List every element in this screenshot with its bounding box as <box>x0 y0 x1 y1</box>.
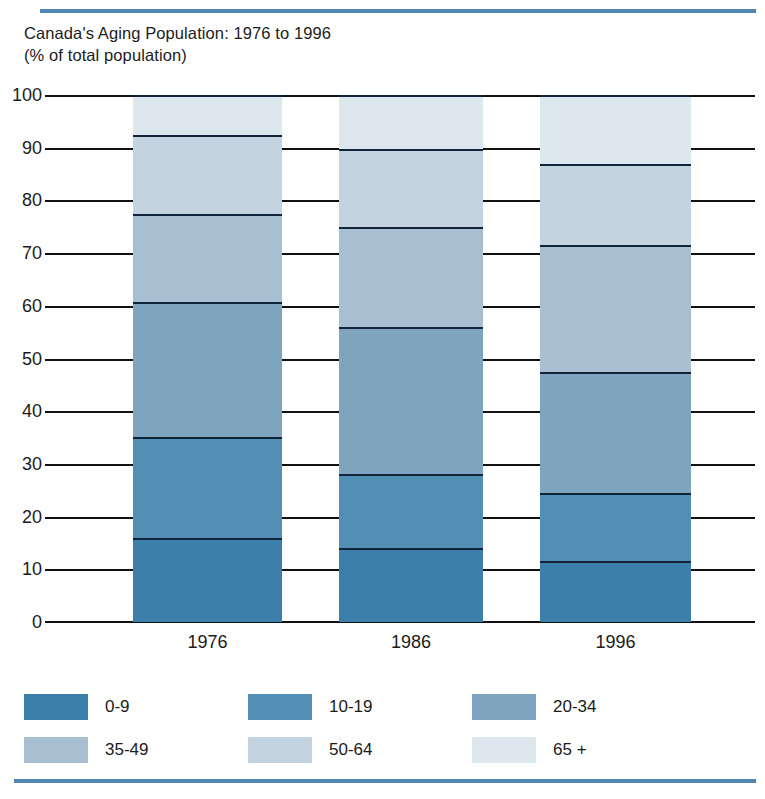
bar-segment-1976-0-9[interactable] <box>133 538 282 622</box>
gridline <box>691 517 755 519</box>
gridline <box>483 95 540 97</box>
bar-segment-1976-50-64[interactable] <box>133 135 282 215</box>
legend-swatch-10-19 <box>248 694 312 720</box>
y-axis-tick-label: 90 <box>0 137 42 158</box>
gridline <box>282 569 339 571</box>
bar-segment-1996-50-64[interactable] <box>540 164 691 246</box>
gridline <box>45 411 133 413</box>
bar-1976[interactable] <box>133 95 282 622</box>
legend-item-10-19: 10-19 <box>248 692 472 722</box>
gridline <box>483 253 540 255</box>
gridline <box>45 200 133 202</box>
gridline <box>45 148 133 150</box>
bar-segment-1986-20-34[interactable] <box>339 327 483 475</box>
legend-label-0-9: 0-9 <box>105 697 130 717</box>
gridline <box>282 306 339 308</box>
bar-segment-1976-35-49[interactable] <box>133 214 282 302</box>
chart-page: Canada's Aging Population: 1976 to 1996 … <box>0 0 765 799</box>
gridline <box>45 95 133 97</box>
gridline <box>691 253 755 255</box>
bar-segment-1976-65-+[interactable] <box>133 95 282 135</box>
y-axis-tick-label: 60 <box>0 295 42 316</box>
gridline <box>282 253 339 255</box>
x-axis-label-1996: 1996 <box>540 632 691 653</box>
gridline <box>691 464 755 466</box>
gridline <box>483 306 540 308</box>
bar-1996[interactable] <box>540 95 691 622</box>
legend-label-35-49: 35-49 <box>105 740 148 760</box>
gridline <box>282 359 339 361</box>
gridline <box>45 569 133 571</box>
gridline <box>282 411 339 413</box>
gridline <box>483 359 540 361</box>
legend-label-10-19: 10-19 <box>329 697 372 717</box>
bar-1986[interactable] <box>339 95 483 622</box>
x-axis-label-1976: 1976 <box>133 632 282 653</box>
bar-segment-1986-35-49[interactable] <box>339 227 483 327</box>
gridline <box>691 306 755 308</box>
bar-segment-1996-0-9[interactable] <box>540 561 691 622</box>
y-axis-tick-label: 100 <box>0 85 42 106</box>
y-axis-tick-label: 70 <box>0 243 42 264</box>
legend-swatch-20-34 <box>472 694 536 720</box>
bar-segment-1996-10-19[interactable] <box>540 493 691 562</box>
bottom-rule <box>14 779 756 783</box>
y-axis-tick-label: 20 <box>0 506 42 527</box>
bar-segment-1996-20-34[interactable] <box>540 372 691 493</box>
legend-item-35-49: 35-49 <box>24 735 248 765</box>
legend-item-20-34: 20-34 <box>472 692 696 722</box>
gridline <box>691 569 755 571</box>
gridline <box>282 464 339 466</box>
legend-swatch-0-9 <box>24 694 88 720</box>
y-axis-tick-label: 80 <box>0 190 42 211</box>
bar-segment-1996-35-49[interactable] <box>540 245 691 371</box>
gridline <box>691 359 755 361</box>
gridline <box>483 148 540 150</box>
gridline <box>483 200 540 202</box>
x-axis-label-1986: 1986 <box>339 632 483 653</box>
gridline <box>282 148 339 150</box>
gridline <box>691 95 755 97</box>
legend-row-2: 35-49 50-64 65 + <box>24 735 740 765</box>
legend-swatch-35-49 <box>24 737 88 763</box>
gridline <box>282 200 339 202</box>
y-axis-tick-label: 40 <box>0 401 42 422</box>
legend-item-0-9: 0-9 <box>24 692 248 722</box>
bar-segment-1986-0-9[interactable] <box>339 548 483 622</box>
gridline <box>691 411 755 413</box>
gridline <box>45 253 133 255</box>
gridline <box>282 517 339 519</box>
gridline <box>45 359 133 361</box>
gridline <box>483 411 540 413</box>
gridline <box>45 464 133 466</box>
gridline <box>483 517 540 519</box>
legend-label-20-34: 20-34 <box>553 697 596 717</box>
bar-segment-1986-50-64[interactable] <box>339 149 483 227</box>
y-axis-tick-label: 50 <box>0 348 42 369</box>
legend-label-65-plus: 65 + <box>553 740 587 760</box>
legend-item-50-64: 50-64 <box>248 735 472 765</box>
legend-label-50-64: 50-64 <box>329 740 372 760</box>
gridline <box>282 95 339 97</box>
gridline <box>45 517 133 519</box>
legend-item-65-plus: 65 + <box>472 735 696 765</box>
legend-row-1: 0-9 10-19 20-34 <box>24 692 740 722</box>
gridline <box>691 200 755 202</box>
bar-segment-1986-10-19[interactable] <box>339 474 483 548</box>
bar-segment-1986-65-+[interactable] <box>339 95 483 149</box>
legend-swatch-50-64 <box>248 737 312 763</box>
gridline <box>691 148 755 150</box>
bar-segment-1976-10-19[interactable] <box>133 437 282 538</box>
gridline <box>483 464 540 466</box>
plot-area: 1009080706050403020100197619861996 <box>0 0 765 640</box>
chart-legend: 0-9 10-19 20-34 35-49 50-64 65 + <box>24 688 740 772</box>
y-axis-tick-label: 10 <box>0 559 42 580</box>
gridline <box>483 569 540 571</box>
y-axis-tick-label: 0 <box>0 612 42 633</box>
legend-swatch-65-plus <box>472 737 536 763</box>
gridline <box>45 306 133 308</box>
bar-segment-1976-20-34[interactable] <box>133 302 282 437</box>
y-axis-tick-label: 30 <box>0 453 42 474</box>
bar-segment-1996-65-+[interactable] <box>540 95 691 164</box>
